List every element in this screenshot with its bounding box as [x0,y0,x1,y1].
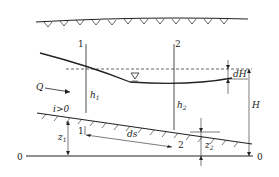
channel-flow-diagram: 1 2 Q h1 h2 i>0 0 0 z1 1 ds [0,0,279,177]
ds-label: ds [127,129,138,139]
h-total-label: H [251,100,260,110]
channel-bed [37,113,252,147]
section-1-label: 1 [78,39,84,49]
datum-left-label: 0 [17,152,23,162]
dh-dimension [226,60,230,94]
slope-label: i>0 [53,104,69,114]
z2-label: z2 [204,140,214,151]
top-boundary [36,18,248,27]
flow-label: Q [36,82,44,92]
z1-label: z1 [57,132,67,143]
depth-1-label: h1 [90,90,100,101]
section-2-bed-label: 2 [178,140,184,150]
datum-right-label: 0 [257,152,263,162]
section-2-label: 2 [175,39,181,49]
water-surface [40,53,232,83]
depth-2-label: h2 [177,100,187,111]
water-surface-marker-icon [131,73,139,81]
flow-arrow [45,88,70,94]
z1-dimension [66,121,70,155]
section-1-bed-label: 1 [78,126,84,136]
dh-label: dH [233,69,247,79]
